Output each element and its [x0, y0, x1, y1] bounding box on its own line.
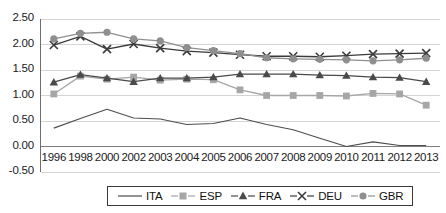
legend-label: DEU — [318, 190, 342, 202]
x-tick-label-2013: 2013 — [410, 151, 442, 163]
marker-square — [316, 92, 323, 99]
y-tick-label: 1.50 — [0, 62, 34, 74]
legend-label: GBR — [379, 190, 403, 202]
legend-label: ITA — [146, 190, 162, 202]
marker-square — [290, 92, 297, 99]
marker-circle — [423, 55, 430, 62]
marker-circle — [369, 57, 376, 64]
legend-item-gbr[interactable]: GBR — [350, 190, 403, 202]
legend-marker-square-icon — [170, 190, 196, 202]
marker-square — [263, 92, 270, 99]
marker-circle — [343, 56, 350, 63]
series-ita — [54, 109, 426, 146]
legend-marker-triangle-icon — [230, 190, 256, 202]
plot-area — [0, 0, 446, 213]
legend-item-esp[interactable]: ESP — [170, 190, 221, 202]
marker-circle — [210, 47, 217, 54]
marker-square — [50, 91, 57, 98]
line-chart: 2.502.001.501.000.500.00-0.50 1996199820… — [0, 0, 446, 213]
legend-label: FRA — [259, 190, 281, 202]
marker-square — [370, 90, 377, 97]
y-tick-label: 0.50 — [0, 113, 34, 125]
y-tick-label: 0.00 — [0, 139, 34, 151]
y-tick-label: 2.50 — [0, 11, 34, 23]
series-fra — [50, 70, 431, 86]
marker-square — [343, 93, 350, 100]
marker-circle — [130, 35, 137, 42]
marker-circle — [290, 55, 297, 62]
y-tick-label: -0.50 — [0, 164, 34, 176]
marker-square — [396, 91, 403, 98]
marker-square — [237, 86, 244, 93]
marker-circle — [157, 37, 164, 44]
marker-circle — [183, 44, 190, 51]
marker-circle — [236, 50, 243, 57]
legend-marker-circle-icon — [350, 190, 376, 202]
legend-item-fra[interactable]: FRA — [230, 190, 281, 202]
legend-marker-none-icon — [117, 190, 143, 202]
marker-circle — [103, 29, 110, 36]
marker-circle — [396, 56, 403, 63]
legend-marker-cross-icon — [289, 190, 315, 202]
series-gbr — [50, 29, 430, 65]
series-line — [54, 109, 426, 146]
y-tick-label: 1.00 — [0, 88, 34, 100]
chart-legend: ITAESPFRADEUGBR — [107, 186, 413, 206]
marker-circle — [50, 35, 57, 42]
marker-circle — [316, 56, 323, 63]
marker-circle — [263, 54, 270, 61]
legend-label: ESP — [199, 190, 221, 202]
legend-item-ita[interactable]: ITA — [117, 190, 162, 202]
legend-item-deu[interactable]: DEU — [289, 190, 342, 202]
marker-circle — [77, 30, 84, 37]
marker-square — [423, 102, 430, 109]
y-tick-label: 2.00 — [0, 37, 34, 49]
